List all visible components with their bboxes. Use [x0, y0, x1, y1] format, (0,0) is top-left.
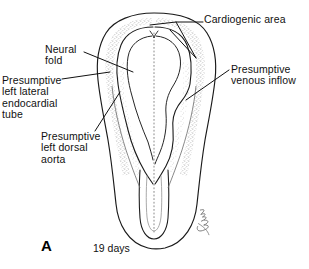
- label-neural-fold: Neural fold: [45, 44, 77, 67]
- artist-signature: [195, 208, 211, 236]
- label-presumptive-left-dorsal-aorta: Presumptive left dorsal aorta: [41, 131, 100, 165]
- figure-caption-age: 19 days: [93, 242, 130, 254]
- label-presumptive-venous-inflow: Presumptive venous inflow: [231, 64, 296, 87]
- embryo-body: [97, 13, 215, 249]
- label-presumptive-left-lateral-endocardial-tube: Presumptive left lateral endocardial tub…: [2, 75, 61, 120]
- label-cardiogenic-area: Cardiogenic area: [204, 14, 286, 25]
- figure-panel-a: Cardiogenic area Neural fold Presumptive…: [0, 0, 309, 269]
- panel-letter: A: [41, 237, 52, 254]
